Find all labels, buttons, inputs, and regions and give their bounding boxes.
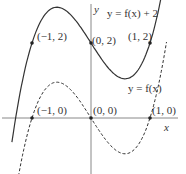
label-neg1-0: (−1, 0) [37,104,67,117]
point-1-0 [148,116,152,120]
label-0-2: (0, 2) [92,34,116,47]
solid-curve-label: y = f(x) + 2 [107,7,158,20]
label-1-2: (1, 2) [128,30,152,43]
label-0-0: (0, 0) [93,104,117,117]
solid-curve [12,0,171,142]
y-axis-label: y [93,3,99,15]
graph: y x y = f(x) + 2 y = f(x) (−1, 2) (0, 2)… [0,0,186,174]
point-0-0 [89,116,93,120]
x-axis-label: x [163,121,169,133]
dashed-curve-label: y = f(x) [128,82,162,95]
point-neg1-0 [30,116,34,120]
point-neg1-2 [30,41,34,45]
label-neg1-2: (−1, 2) [37,30,67,43]
label-1-0: (1, 0) [152,104,176,117]
